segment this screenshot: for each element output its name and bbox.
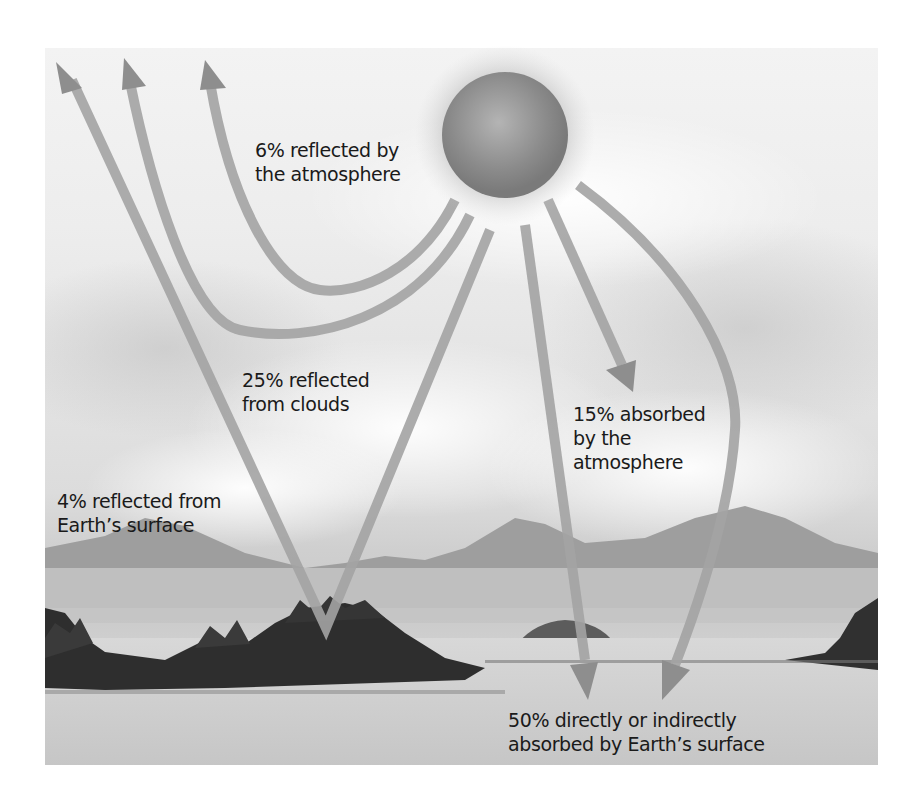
label-reflected-atmosphere: 6% reflected by the atmosphere — [255, 138, 401, 186]
sun-icon — [415, 45, 595, 225]
arrow-absorbed-atmosphere — [548, 200, 636, 392]
label-reflected-surface: 4% reflected from Earth’s surface — [57, 489, 221, 537]
label-absorbed-atmosphere: 15% absorbed by the atmosphere — [573, 402, 705, 474]
label-absorbed-surface: 50% directly or indirectly absorbed by E… — [508, 708, 765, 756]
label-reflected-clouds: 25% reflected from clouds — [242, 368, 369, 416]
energy-flow-arrows — [0, 0, 916, 796]
solar-radiation-diagram: 6% reflected by the atmosphere 25% refle… — [0, 0, 916, 796]
